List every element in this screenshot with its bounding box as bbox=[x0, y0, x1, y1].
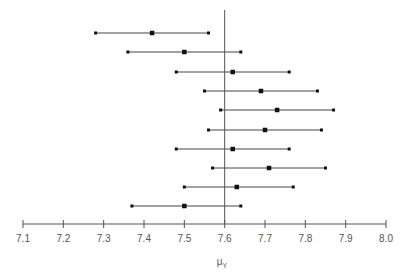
endpoint-marker bbox=[203, 90, 206, 93]
endpoint-marker bbox=[175, 71, 178, 74]
intervals bbox=[94, 31, 335, 209]
interval-row bbox=[183, 185, 295, 190]
interval-row bbox=[175, 70, 291, 75]
endpoint-marker bbox=[316, 90, 319, 93]
x-tick-label: 7.7 bbox=[258, 233, 272, 244]
mean-marker bbox=[182, 204, 187, 209]
endpoint-marker bbox=[183, 186, 186, 189]
interval-row bbox=[219, 108, 335, 113]
endpoint-marker bbox=[288, 148, 291, 151]
mean-marker bbox=[230, 147, 235, 152]
x-tick-label: 8.0 bbox=[379, 233, 393, 244]
interval-row bbox=[175, 147, 291, 152]
x-tick-label: 7.8 bbox=[298, 233, 312, 244]
x-tick-label: 7.9 bbox=[339, 233, 353, 244]
endpoint-marker bbox=[332, 109, 335, 112]
x-tick-label: 7.2 bbox=[56, 233, 70, 244]
endpoint-marker bbox=[207, 129, 210, 132]
endpoint-marker bbox=[320, 129, 323, 132]
x-tick-label: 7.5 bbox=[177, 233, 191, 244]
endpoint-marker bbox=[207, 32, 210, 35]
endpoint-marker bbox=[94, 32, 97, 35]
endpoint-marker bbox=[324, 167, 327, 170]
x-tick-label: 7.3 bbox=[97, 233, 111, 244]
x-tick-label: 7.6 bbox=[218, 233, 232, 244]
endpoint-marker bbox=[288, 71, 291, 74]
mean-marker bbox=[267, 166, 272, 171]
interval-row bbox=[130, 204, 242, 209]
endpoint-marker bbox=[211, 167, 214, 170]
mean-marker bbox=[150, 31, 155, 36]
x-tick-label: 7.4 bbox=[137, 233, 151, 244]
x-axis-title: μY bbox=[217, 256, 228, 269]
mean-marker bbox=[235, 185, 240, 190]
interval-row bbox=[203, 89, 319, 94]
x-tick-label: 7.1 bbox=[16, 233, 30, 244]
mean-marker bbox=[263, 128, 268, 133]
confidence-interval-chart: 7.17.27.37.47.57.67.77.87.98.0 μY bbox=[0, 0, 405, 280]
interval-row bbox=[211, 166, 327, 171]
endpoint-marker bbox=[175, 148, 178, 151]
mean-marker bbox=[230, 70, 235, 75]
endpoint-marker bbox=[130, 205, 133, 208]
mean-marker bbox=[275, 108, 280, 113]
endpoint-marker bbox=[126, 51, 129, 54]
endpoint-marker bbox=[219, 109, 222, 112]
interval-row bbox=[94, 31, 210, 36]
mean-marker bbox=[182, 50, 187, 55]
endpoint-marker bbox=[239, 205, 242, 208]
mean-marker bbox=[259, 89, 264, 94]
endpoint-marker bbox=[239, 51, 242, 54]
endpoint-marker bbox=[292, 186, 295, 189]
